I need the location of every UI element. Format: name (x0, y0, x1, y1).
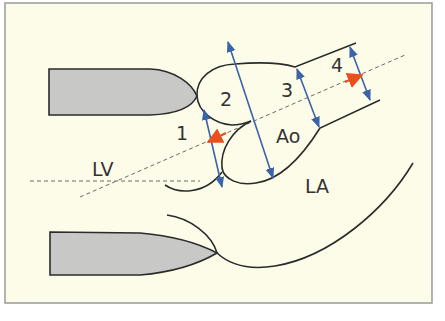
aortic-root-diagram: 1 2 3 4 Ao LV LA (0, 0, 445, 321)
level-4-label: 4 (331, 54, 343, 76)
left-ventricle-label: LV (92, 158, 114, 180)
level-3-label: 3 (281, 79, 293, 101)
aorta-label: Ao (276, 125, 300, 147)
interventricular-septum-shape (49, 69, 197, 115)
level-1-label: 1 (176, 122, 188, 144)
level-2-label: 2 (220, 88, 232, 110)
left-atrium-label: LA (305, 175, 329, 197)
